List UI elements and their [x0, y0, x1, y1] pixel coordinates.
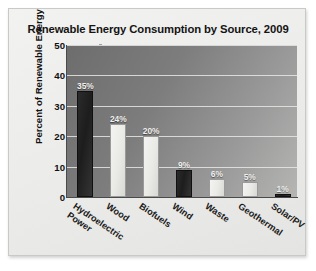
bar-value-label: 9% [178, 160, 190, 170]
plot-area: 35%24%20%9%6%5%1% [67, 45, 297, 197]
chart-card: Renewable Energy Consumption by Source, … [8, 8, 306, 256]
bar: 24% [110, 124, 126, 197]
bar: 20% [143, 136, 159, 197]
y-tick-label: 20 [43, 131, 65, 142]
chart-page: Renewable Energy Consumption by Source, … [0, 0, 316, 271]
y-axis-tick-labels: 01020304050 [43, 45, 65, 197]
bar-value-label: 6% [211, 169, 223, 179]
bar: 9% [176, 170, 192, 197]
y-tick-label: 0 [43, 192, 65, 203]
bar-value-label: 35% [77, 81, 94, 91]
chart-title: Renewable Energy Consumption by Source, … [9, 23, 307, 35]
bar: 6% [209, 179, 225, 197]
gridline [67, 106, 297, 107]
bar-value-label: 5% [244, 172, 256, 182]
y-axis-title: Percent of Renewable Energy [33, 2, 44, 152]
x-tick-label: Wood [104, 201, 131, 224]
x-tick-label-line: Biofuels [138, 201, 174, 230]
gridline [67, 136, 297, 137]
x-tick-label: Biofuels [137, 201, 173, 230]
x-tick-label-line: Wind [170, 201, 194, 222]
x-axis-line [67, 197, 298, 198]
x-tick-label: Waste [203, 201, 231, 225]
y-tick-label: 10 [43, 161, 65, 172]
y-tick-label: 50 [43, 40, 65, 51]
y-tick-label: 30 [43, 100, 65, 111]
bar: 35% [77, 91, 93, 197]
x-tick-label-line: Wood [105, 201, 132, 223]
gridline [67, 45, 297, 46]
gridline [67, 75, 297, 76]
x-axis-tick-labels: HydroelectricPowerWoodBiofuelsWindWasteG… [67, 199, 297, 261]
bar: 5% [242, 182, 258, 197]
x-tick-label-line: Waste [203, 201, 231, 224]
y-tick-label: 40 [43, 70, 65, 81]
x-tick-label: Wind [170, 201, 194, 222]
bar-value-label: 20% [143, 126, 160, 136]
bar-value-label: 24% [110, 114, 127, 124]
bar-value-label: 1% [277, 184, 289, 194]
